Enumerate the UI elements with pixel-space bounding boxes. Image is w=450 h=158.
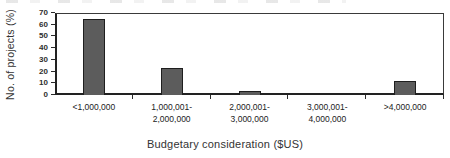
x-category-label: <1,000,000 bbox=[55, 101, 133, 113]
y-tick-mark bbox=[51, 24, 55, 25]
x-tick-mark bbox=[365, 95, 366, 99]
x-tick-mark bbox=[287, 95, 288, 99]
y-tick-label: 30 bbox=[0, 55, 48, 65]
y-tick-label: 70 bbox=[0, 8, 48, 18]
y-tick-label: 50 bbox=[0, 31, 48, 41]
y-tick-mark bbox=[51, 35, 55, 36]
bar-chart-figure: No. of projects (%) 010203040506070<1,00… bbox=[0, 0, 450, 158]
y-tick-label: 40 bbox=[0, 43, 48, 53]
y-tick-mark bbox=[51, 82, 55, 83]
plot-area bbox=[55, 13, 444, 95]
x-tick-mark bbox=[443, 95, 444, 99]
y-tick-mark bbox=[51, 47, 55, 48]
bar bbox=[239, 91, 261, 95]
x-category-label: 2,000,001- 3,000,000 bbox=[211, 101, 289, 125]
x-category-label: 3,000,001- 4,000,000 bbox=[288, 101, 366, 125]
x-tick-mark bbox=[132, 95, 133, 99]
y-tick-label: 20 bbox=[0, 67, 48, 77]
y-tick-mark bbox=[51, 94, 55, 95]
x-category-label: >4,000,000 bbox=[366, 101, 444, 113]
bar bbox=[83, 19, 105, 95]
y-tick-mark bbox=[51, 59, 55, 60]
y-tick-mark bbox=[51, 71, 55, 72]
y-tick-mark bbox=[51, 12, 55, 13]
bar bbox=[394, 81, 416, 95]
y-tick-label: 0 bbox=[0, 90, 48, 100]
x-axis-title: Budgetary consideration ($US) bbox=[0, 138, 450, 150]
cropped-text-artifact bbox=[6, 0, 346, 3]
bar bbox=[161, 68, 183, 95]
x-category-label: 1,000,001- 2,000,000 bbox=[133, 101, 211, 125]
y-tick-label: 10 bbox=[0, 78, 48, 88]
x-tick-mark bbox=[210, 95, 211, 99]
y-tick-label: 60 bbox=[0, 20, 48, 30]
